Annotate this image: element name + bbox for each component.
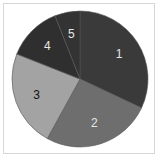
- pie-chart: 12345: [0, 0, 159, 158]
- slice-label-2: 2: [91, 116, 98, 130]
- slice-label-3: 3: [33, 88, 40, 102]
- slice-label-1: 1: [116, 47, 123, 61]
- slice-label-4: 4: [44, 39, 51, 53]
- slice-label-5: 5: [68, 27, 75, 41]
